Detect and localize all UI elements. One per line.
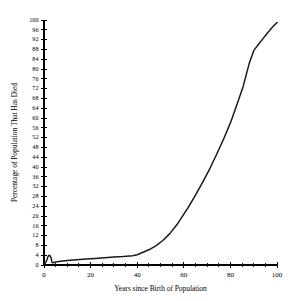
y-tick-label: 88: [32, 45, 38, 52]
y-tick-label: 64: [32, 104, 38, 111]
x-axis-title: Years since Birth of Population: [114, 284, 207, 293]
y-tick-label: 20: [32, 212, 38, 219]
chart-figure: 0481216202428323640444852566064687276808…: [0, 0, 289, 301]
y-tick-label: 32: [32, 182, 38, 189]
y-tick-label: 72: [32, 84, 38, 91]
y-tick-label: 0: [35, 261, 38, 268]
y-tick-label: 96: [32, 26, 38, 33]
y-tick-label: 68: [32, 94, 38, 101]
x-tick-label: 0: [42, 271, 46, 279]
data-series-line: [44, 22, 277, 264]
y-tick-label: 84: [32, 55, 38, 62]
line-chart: 0481216202428323640444852566064687276808…: [0, 0, 289, 301]
x-tick-label: 20: [87, 271, 95, 279]
x-tick-label: 100: [272, 271, 283, 279]
y-tick-label: 80: [32, 65, 38, 72]
x-tick-label: 60: [180, 271, 188, 279]
y-tick-label: 100: [29, 16, 38, 23]
y-tick-label: 40: [32, 163, 38, 170]
y-tick-label: 8: [35, 241, 38, 248]
x-tick-label: 80: [227, 271, 235, 279]
x-tick-label: 40: [134, 271, 142, 279]
y-tick-label: 48: [32, 143, 38, 150]
y-tick-label: 4: [35, 251, 38, 258]
y-tick-label: 16: [32, 222, 38, 229]
y-tick-label: 24: [32, 202, 38, 209]
y-tick-label: 36: [32, 173, 38, 180]
y-tick-label: 92: [32, 35, 38, 42]
y-tick-label: 60: [32, 114, 38, 121]
y-tick-label: 12: [32, 231, 38, 238]
y-tick-label: 52: [32, 133, 38, 140]
y-tick-label: 76: [32, 75, 38, 82]
y-tick-label: 56: [32, 124, 38, 131]
y-tick-label: 28: [32, 192, 38, 199]
y-axis-title: Percentage of Population That Has Died: [10, 83, 19, 202]
y-tick-label: 44: [32, 153, 38, 160]
